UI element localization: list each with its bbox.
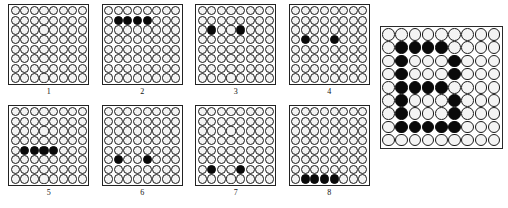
empty-circle-icon[interactable] [382, 121, 395, 134]
empty-circle-icon[interactable] [291, 16, 300, 25]
empty-circle-icon[interactable] [59, 117, 68, 126]
empty-circle-icon[interactable] [123, 45, 132, 54]
empty-circle-icon[interactable] [49, 117, 58, 126]
empty-circle-icon[interactable] [68, 126, 77, 135]
empty-circle-icon[interactable] [59, 174, 68, 183]
empty-circle-icon[interactable] [133, 64, 142, 73]
empty-circle-icon[interactable] [236, 16, 245, 25]
empty-circle-icon[interactable] [30, 165, 39, 174]
empty-circle-icon[interactable] [30, 16, 39, 25]
empty-circle-icon[interactable] [39, 54, 48, 63]
empty-circle-icon[interactable] [246, 25, 255, 34]
empty-circle-icon[interactable] [68, 117, 77, 126]
empty-circle-icon[interactable] [291, 54, 300, 63]
empty-circle-icon[interactable] [11, 73, 20, 82]
empty-circle-icon[interactable] [123, 146, 132, 155]
empty-circle-icon[interactable] [68, 25, 77, 34]
empty-circle-icon[interactable] [78, 165, 87, 174]
empty-circle-icon[interactable] [20, 155, 29, 164]
empty-circle-icon[interactable] [358, 146, 367, 155]
panel-6-grid[interactable] [102, 105, 183, 186]
filled-circle-icon[interactable] [395, 81, 408, 94]
empty-circle-icon[interactable] [11, 107, 20, 116]
empty-circle-icon[interactable] [291, 35, 300, 44]
empty-circle-icon[interactable] [114, 54, 123, 63]
empty-circle-icon[interactable] [265, 126, 274, 135]
empty-circle-icon[interactable] [162, 126, 171, 135]
panel-4-grid[interactable] [289, 4, 370, 85]
filled-circle-icon[interactable] [395, 55, 408, 68]
empty-circle-icon[interactable] [78, 107, 87, 116]
empty-circle-icon[interactable] [49, 64, 58, 73]
empty-circle-icon[interactable] [123, 54, 132, 63]
empty-circle-icon[interactable] [226, 16, 235, 25]
empty-circle-icon[interactable] [11, 126, 20, 135]
empty-circle-icon[interactable] [349, 25, 358, 34]
empty-circle-icon[interactable] [435, 68, 448, 81]
empty-circle-icon[interactable] [339, 136, 348, 145]
empty-circle-icon[interactable] [339, 174, 348, 183]
empty-circle-icon[interactable] [198, 107, 207, 116]
empty-circle-icon[interactable] [198, 45, 207, 54]
empty-circle-icon[interactable] [339, 117, 348, 126]
filled-circle-icon[interactable] [448, 121, 461, 134]
empty-circle-icon[interactable] [301, 6, 310, 15]
empty-circle-icon[interactable] [30, 73, 39, 82]
empty-circle-icon[interactable] [162, 64, 171, 73]
empty-circle-icon[interactable] [217, 107, 226, 116]
empty-circle-icon[interactable] [68, 146, 77, 155]
empty-circle-icon[interactable] [435, 28, 448, 41]
empty-circle-icon[interactable] [435, 94, 448, 107]
empty-circle-icon[interactable] [59, 155, 68, 164]
empty-circle-icon[interactable] [265, 25, 274, 34]
empty-circle-icon[interactable] [349, 117, 358, 126]
empty-circle-icon[interactable] [162, 136, 171, 145]
empty-circle-icon[interactable] [255, 117, 264, 126]
empty-circle-icon[interactable] [39, 64, 48, 73]
empty-circle-icon[interactable] [320, 146, 329, 155]
empty-circle-icon[interactable] [11, 35, 20, 44]
empty-circle-icon[interactable] [133, 73, 142, 82]
empty-circle-icon[interactable] [255, 45, 264, 54]
empty-circle-icon[interactable] [339, 126, 348, 135]
empty-circle-icon[interactable] [123, 25, 132, 34]
filled-circle-icon[interactable] [448, 107, 461, 120]
empty-circle-icon[interactable] [488, 107, 501, 120]
empty-circle-icon[interactable] [226, 165, 235, 174]
empty-circle-icon[interactable] [171, 35, 180, 44]
empty-circle-icon[interactable] [291, 126, 300, 135]
empty-circle-icon[interactable] [114, 64, 123, 73]
empty-circle-icon[interactable] [104, 117, 113, 126]
empty-circle-icon[interactable] [68, 45, 77, 54]
empty-circle-icon[interactable] [123, 126, 132, 135]
empty-circle-icon[interactable] [207, 73, 216, 82]
empty-circle-icon[interactable] [265, 174, 274, 183]
empty-circle-icon[interactable] [395, 134, 408, 147]
empty-circle-icon[interactable] [20, 16, 29, 25]
empty-circle-icon[interactable] [435, 107, 448, 120]
filled-circle-icon[interactable] [39, 146, 48, 155]
empty-circle-icon[interactable] [349, 54, 358, 63]
empty-circle-icon[interactable] [339, 146, 348, 155]
empty-circle-icon[interactable] [422, 55, 435, 68]
empty-circle-icon[interactable] [301, 146, 310, 155]
empty-circle-icon[interactable] [236, 54, 245, 63]
empty-circle-icon[interactable] [162, 117, 171, 126]
empty-circle-icon[interactable] [310, 6, 319, 15]
empty-circle-icon[interactable] [11, 6, 20, 15]
empty-circle-icon[interactable] [255, 6, 264, 15]
empty-circle-icon[interactable] [114, 6, 123, 15]
empty-circle-icon[interactable] [30, 6, 39, 15]
empty-circle-icon[interactable] [143, 136, 152, 145]
filled-circle-icon[interactable] [114, 16, 123, 25]
empty-circle-icon[interactable] [226, 155, 235, 164]
empty-circle-icon[interactable] [152, 35, 161, 44]
empty-circle-icon[interactable] [207, 107, 216, 116]
empty-circle-icon[interactable] [198, 64, 207, 73]
filled-circle-icon[interactable] [207, 25, 216, 34]
empty-circle-icon[interactable] [265, 45, 274, 54]
empty-circle-icon[interactable] [349, 6, 358, 15]
empty-circle-icon[interactable] [59, 165, 68, 174]
empty-circle-icon[interactable] [78, 64, 87, 73]
empty-circle-icon[interactable] [422, 94, 435, 107]
